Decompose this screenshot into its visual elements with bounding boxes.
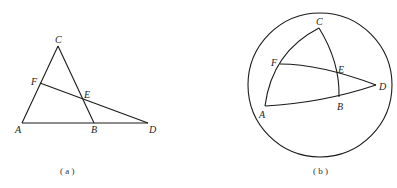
arc-fd bbox=[280, 64, 376, 85]
segment-fd bbox=[40, 83, 148, 123]
label-b-a: A bbox=[258, 109, 266, 120]
label-b-b: B bbox=[337, 101, 343, 112]
caption-b: ( b ) bbox=[313, 166, 328, 176]
label-a-f: F bbox=[30, 76, 38, 87]
label-b-e: E bbox=[337, 64, 344, 75]
label-a-b: B bbox=[91, 124, 97, 135]
label-a-c: C bbox=[55, 34, 62, 45]
arc-ad bbox=[265, 85, 376, 106]
label-b-d: D bbox=[378, 81, 387, 92]
figure-b-spherical: C F E D B A ( b ) bbox=[248, 13, 392, 176]
label-b-f: F bbox=[270, 57, 278, 68]
segment-ac bbox=[22, 46, 58, 123]
arc-cb bbox=[319, 28, 339, 97]
label-b-c: C bbox=[316, 16, 323, 27]
label-a-e: E bbox=[83, 89, 90, 100]
figure-a-planar: C F E A B D ( a ) bbox=[14, 34, 157, 176]
caption-a: ( a ) bbox=[60, 166, 75, 176]
geometry-figure: C F E A B D ( a ) C F E D B A ( b ) bbox=[0, 0, 397, 188]
label-a-a: A bbox=[14, 124, 22, 135]
segment-cb bbox=[58, 46, 94, 123]
label-a-d: D bbox=[148, 124, 157, 135]
